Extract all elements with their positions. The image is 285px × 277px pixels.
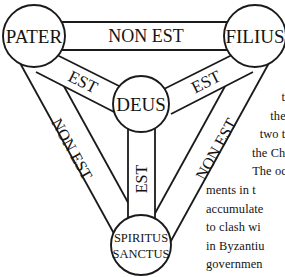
body-line: governmen — [206, 255, 285, 274]
link-label-non-est-top: NON EST — [108, 26, 184, 46]
body-line: the N — [206, 107, 285, 126]
link-label-est-center: EST — [133, 165, 150, 194]
link-label-deus-spiritus: EST — [133, 165, 150, 194]
scutum-fidei-page: PATER FILIUS DEUS SPIRITUS SANCTUS NON E… — [0, 0, 285, 277]
body-line: The occa — [206, 162, 285, 181]
node-filius: FILIUS — [224, 5, 285, 67]
body-line: the Chris — [206, 144, 285, 163]
body-line: two tho — [206, 125, 285, 144]
node-pater: PATER — [3, 5, 65, 67]
node-spiritus-sanctus: SPIRITUS SANCTUS — [111, 215, 171, 275]
body-text-column: to l the N two tho the Chris The occa me… — [206, 88, 285, 274]
body-line: to clash wi — [206, 218, 285, 237]
link-label-pater-filius: NON EST — [108, 26, 184, 46]
body-line: to l — [206, 88, 285, 107]
node-label-filius: FILIUS — [225, 26, 284, 47]
body-line: in Byzantiu — [206, 237, 285, 256]
node-label-sanctus: SANCTUS — [113, 247, 170, 261]
node-deus: DEUS — [113, 76, 169, 132]
body-line: ments in t — [206, 181, 285, 200]
node-label-pater: PATER — [6, 26, 63, 47]
node-label-spiritus: SPIRITUS — [114, 231, 168, 245]
body-line: accumulate — [206, 200, 285, 219]
node-label-deus: DEUS — [116, 94, 166, 115]
